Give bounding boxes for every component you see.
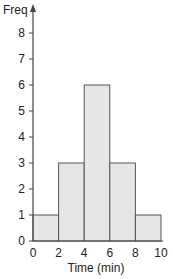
y-tick-label: 3 [18,156,25,170]
bars [33,85,161,241]
histogram-bar [33,215,59,241]
x-tick-label: 10 [154,246,168,260]
x-axis-title: Time (min) [68,261,125,275]
histogram-bar [59,163,85,241]
x-tick-label: 2 [55,246,62,260]
histogram-chart: 012345678 0246810 Freq Time (min) [0,0,173,279]
x-tick-label: 0 [30,246,37,260]
y-ticks: 012345678 [18,26,33,248]
y-axis-title: Freq [3,3,28,17]
x-tick-label: 8 [132,246,139,260]
histogram-bar [135,215,161,241]
y-tick-label: 8 [18,26,25,40]
y-tick-label: 5 [18,104,25,118]
histogram-bar [110,163,136,241]
x-tick-label: 4 [81,246,88,260]
x-tick-label: 6 [106,246,113,260]
y-tick-label: 6 [18,78,25,92]
x-ticks: 0246810 [30,246,168,260]
y-tick-label: 7 [18,52,25,66]
y-tick-label: 1 [18,208,25,222]
y-tick-label: 4 [18,130,25,144]
histogram-bar [84,85,110,241]
y-tick-label: 2 [18,182,25,196]
y-tick-label: 0 [18,234,25,248]
y-axis-arrow-icon [30,4,36,12]
